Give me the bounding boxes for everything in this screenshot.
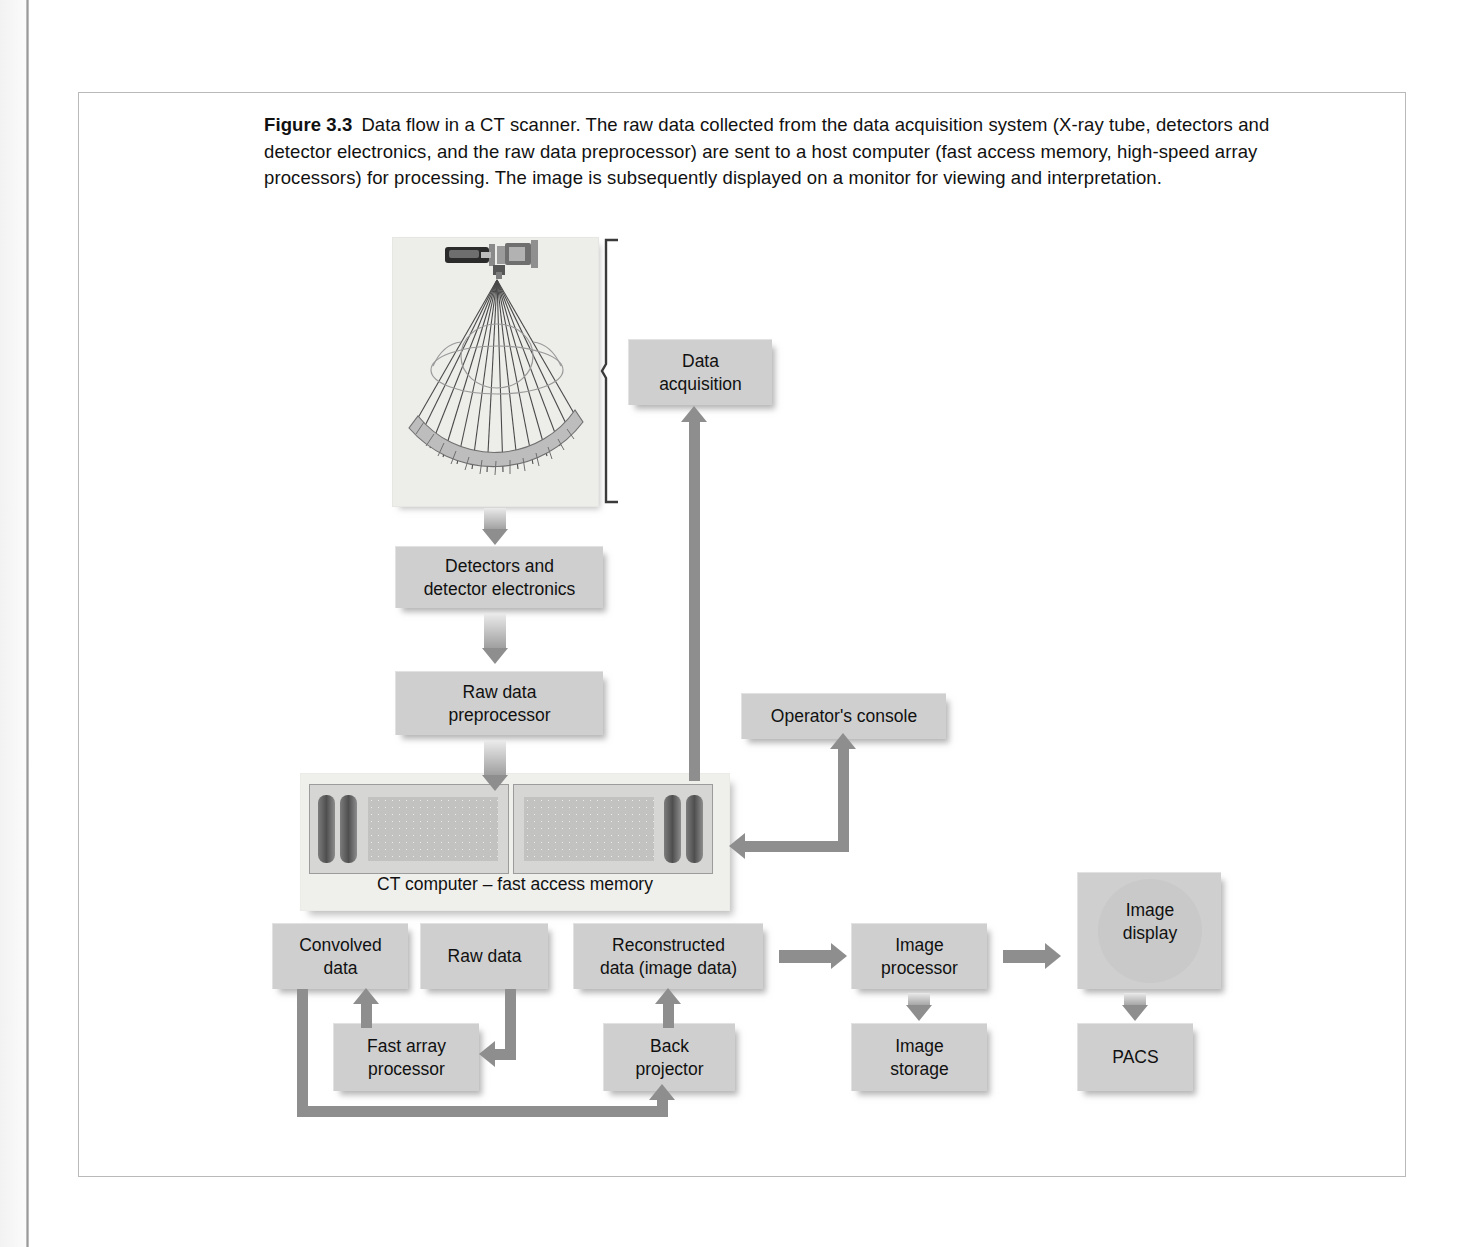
arrowhead-up-icon xyxy=(655,988,681,1004)
figure-caption-text: Data flow in a CT scanner. The raw data … xyxy=(264,114,1269,188)
node-label: Detectors and detector electronics xyxy=(424,555,576,601)
arrowhead-down-icon xyxy=(906,1005,932,1021)
x-ray-tube-icon xyxy=(445,240,538,279)
arrowhead-right-icon xyxy=(831,943,847,969)
node-ct-computer[interactable]: CT computer – fast access memory xyxy=(300,773,730,911)
node-label: Image display xyxy=(1078,899,1222,945)
cabinet-vent xyxy=(686,795,703,863)
node-raw-data-preprocessor[interactable]: Raw data preprocessor xyxy=(395,671,603,735)
detector-arc xyxy=(409,410,583,475)
arrowhead-down-icon xyxy=(482,648,508,664)
node-image-processor[interactable]: Image processor xyxy=(851,923,987,989)
connector-detectors-to-preprocessor xyxy=(484,614,506,650)
connector-feedback-vertical xyxy=(297,989,308,1111)
page-edge-shading xyxy=(0,0,26,1247)
ct-cabinet-right xyxy=(513,784,713,874)
ct-gantry-illustration xyxy=(392,237,599,507)
node-label: Data acquisition xyxy=(659,350,742,396)
node-label: Convolved data xyxy=(299,934,382,980)
node-back-projector[interactable]: Back projector xyxy=(603,1023,735,1091)
connector-rawdata-horizontal xyxy=(495,1049,516,1060)
connector-feedback-riser xyxy=(657,1098,668,1116)
arrowhead-down-icon xyxy=(482,529,508,545)
memory-board-grid xyxy=(368,797,498,861)
figure-number: Figure 3.3 xyxy=(264,114,352,135)
connector-image-processor-to-display xyxy=(1003,950,1047,963)
ct-computer-label: CT computer – fast access memory xyxy=(301,874,729,895)
node-detectors-and-detector-electronics[interactable]: Detectors and detector electronics xyxy=(395,546,603,608)
memory-board-grid xyxy=(524,797,654,861)
connector-rawdata-vertical xyxy=(505,989,516,1055)
page-gutter-rule xyxy=(26,0,29,1247)
connector-preprocessor-to-ct-computer xyxy=(484,741,506,777)
arrowhead-right-icon xyxy=(1045,943,1061,969)
arrowhead-left-icon xyxy=(729,833,745,859)
node-label: Reconstructed data (image data) xyxy=(600,934,737,980)
arrowhead-up-icon xyxy=(649,1084,675,1100)
node-pacs[interactable]: PACS xyxy=(1077,1023,1193,1091)
ct-cabinet-left xyxy=(309,784,509,874)
data-acquisition-bracket xyxy=(600,238,626,504)
node-data-acquisition[interactable]: Data acquisition xyxy=(628,339,772,405)
node-label: Operator's console xyxy=(771,705,917,728)
arrowhead-up-icon xyxy=(830,733,856,749)
connector-feedback-horizontal xyxy=(297,1106,668,1117)
node-reconstructed-data[interactable]: Reconstructed data (image data) xyxy=(573,923,763,989)
cabinet-vent xyxy=(664,795,681,863)
arrowhead-left-icon xyxy=(479,1041,495,1067)
connector-scanner-to-detectors xyxy=(484,508,506,531)
node-label: Fast array processor xyxy=(367,1035,446,1081)
arrowhead-down-icon xyxy=(1122,1005,1148,1021)
node-fast-array-processor[interactable]: Fast array processor xyxy=(333,1023,479,1091)
connector-ct-computer-to-acquisition xyxy=(689,422,700,781)
figure-caption: Figure 3.3Data flow in a CT scanner. The… xyxy=(264,112,1324,192)
node-label: Image storage xyxy=(890,1035,948,1081)
node-label: Image processor xyxy=(881,934,958,980)
connector-reconstructed-to-image-processor xyxy=(779,950,833,963)
ct-gantry-svg xyxy=(393,238,598,506)
node-label: Raw data xyxy=(448,945,522,968)
node-convolved-data[interactable]: Convolved data xyxy=(272,923,408,989)
node-label: PACS xyxy=(1112,1046,1158,1069)
node-label: Raw data preprocessor xyxy=(448,681,550,727)
node-label: Back projector xyxy=(635,1035,703,1081)
node-image-storage[interactable]: Image storage xyxy=(851,1023,987,1091)
connector-console-vertical xyxy=(838,748,849,852)
figure-frame xyxy=(78,92,1406,1177)
node-image-display[interactable]: Image display xyxy=(1077,872,1221,989)
arrowhead-up-icon xyxy=(681,406,707,422)
node-raw-data[interactable]: Raw data xyxy=(420,923,548,989)
cabinet-vent xyxy=(318,795,335,863)
connector-fap-to-convolved xyxy=(361,1004,372,1028)
connector-console-horizontal xyxy=(745,841,849,852)
cabinet-vent xyxy=(340,795,357,863)
connector-backprojector-to-reconstructed xyxy=(663,1004,674,1028)
arrowhead-down-icon xyxy=(482,775,508,791)
arrowhead-up-icon xyxy=(353,988,379,1004)
